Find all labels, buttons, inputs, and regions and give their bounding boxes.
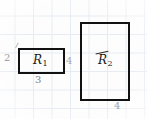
dimension-r2-width: 4: [114, 100, 120, 111]
dimension-r1-width: 3: [35, 74, 41, 85]
dimension-between-rectangles: 4: [66, 55, 72, 66]
rectangle-r2-subscript: 2: [107, 59, 112, 68]
figure-canvas: R1 R2 2 3 4 4: [0, 0, 147, 119]
rectangle-r1-label: R1: [33, 53, 48, 68]
dimension-r1-height: 2: [4, 52, 10, 63]
rectangle-r2-letter: R: [98, 53, 107, 67]
rectangle-r1-subscript: 1: [42, 59, 47, 68]
rectangle-r2-label: R2: [98, 53, 113, 68]
rectangle-r1-letter: R: [33, 53, 42, 67]
